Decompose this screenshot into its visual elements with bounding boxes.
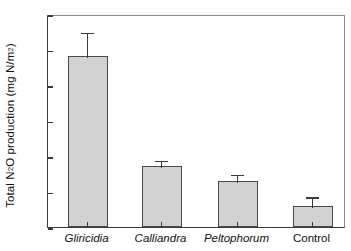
x-tick-label-gliricidia: Gliricidia	[64, 232, 108, 244]
x-tick-mark	[161, 222, 162, 227]
y-tick-mark	[48, 157, 53, 158]
y-tick-mark	[48, 193, 53, 194]
error-bar-cap	[306, 197, 319, 198]
error-bar-stem	[87, 34, 88, 58]
error-bar-stem	[161, 162, 162, 168]
y-axis-title-superscript: 2	[6, 47, 15, 52]
plot-area	[47, 15, 345, 228]
y-tick-mark	[48, 122, 53, 123]
y-axis-title-subscript: 2	[6, 167, 15, 172]
chart-figure: Total N2O production (mg N/m2) 024681012…	[0, 0, 351, 251]
y-axis-title-mid: O production (mg N/m	[4, 52, 16, 167]
bar-gliricidia	[68, 56, 108, 227]
y-axis-title-pre: Total N	[4, 171, 16, 208]
error-bar-stem	[312, 198, 313, 208]
y-tick-mark	[48, 86, 53, 87]
y-tick-mark	[48, 228, 53, 229]
error-bar-stem	[237, 176, 238, 183]
error-bar-cap	[231, 175, 244, 176]
error-bar-cap	[155, 161, 168, 162]
y-tick-mark	[48, 51, 53, 52]
bar-calliandra	[142, 166, 182, 227]
x-tick-mark	[87, 222, 88, 227]
y-axis-title-post: )	[4, 43, 16, 47]
error-bar-cap	[81, 33, 94, 34]
x-tick-mark	[237, 222, 238, 227]
x-tick-label-peltophorum: Peltophorum	[204, 232, 269, 244]
y-axis-title: Total N2O production (mg N/m2)	[0, 0, 20, 251]
bar-peltophorum	[218, 181, 258, 227]
x-tick-mark	[312, 222, 313, 227]
x-tick-label-control: Control	[293, 232, 330, 244]
y-tick-mark	[48, 15, 53, 16]
x-tick-label-calliandra: Calliandra	[135, 232, 187, 244]
